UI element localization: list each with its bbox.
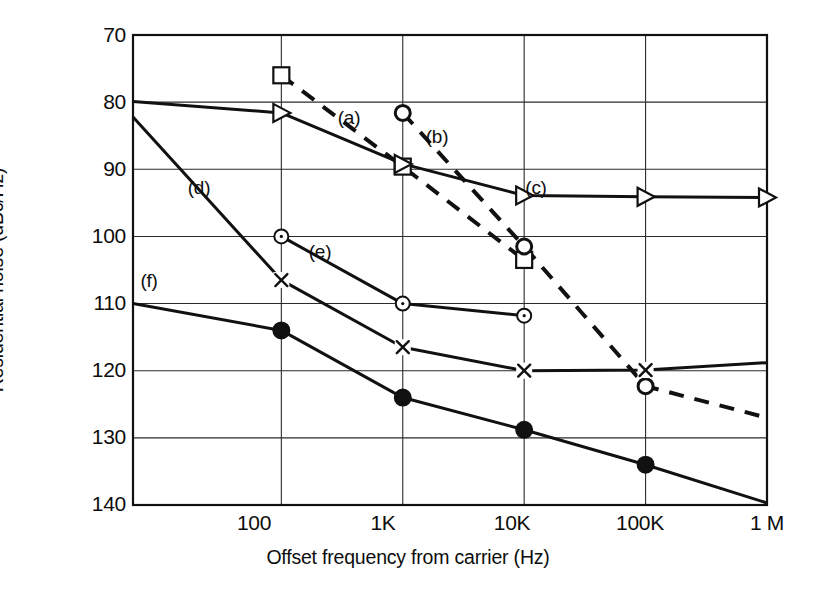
y-tick-80: 80 — [56, 90, 126, 114]
y-tick-100: 100 — [56, 224, 126, 248]
series-line-f — [133, 304, 767, 503]
series-label-f: (f) — [140, 270, 157, 292]
marker-a-100 — [273, 67, 289, 83]
marker-f-100000 — [638, 457, 654, 473]
y-axis-tick-labels: 70 80 90 100 110 120 130 140 — [48, 0, 126, 597]
marker-b-10000 — [517, 239, 532, 254]
marker-e-10000-center — [523, 314, 526, 317]
y-tick-120: 120 — [56, 358, 126, 382]
y-tick-70: 70 — [56, 23, 126, 47]
x-tick-10k: 10K — [494, 511, 530, 535]
series-line-b — [403, 113, 767, 418]
marker-e-1000-center — [401, 302, 404, 305]
x-tick-1k: 1K — [370, 511, 395, 535]
plot-frame — [133, 35, 767, 505]
marker-f-100 — [273, 322, 289, 338]
y-tick-130: 130 — [56, 425, 126, 449]
x-axis-title: Offset frequency from carrier (Hz) — [0, 546, 816, 569]
x-tick-1m: 1 M — [750, 511, 784, 535]
chart-figure: Residential noise (dBc/Hz) 70 80 90 100 … — [0, 0, 816, 597]
x-tick-100: 100 — [237, 511, 271, 535]
y-tick-140: 140 — [56, 492, 126, 516]
marker-b-1000 — [395, 105, 410, 120]
series-line-d — [133, 117, 767, 371]
series-line-c — [133, 101, 767, 197]
series-label-e: (e) — [309, 241, 331, 263]
marker-e-100-center — [280, 235, 283, 238]
marker-f-10000 — [516, 422, 532, 438]
y-tick-90: 90 — [56, 157, 126, 181]
series-label-a: (a) — [338, 107, 360, 129]
plot-border — [133, 35, 767, 505]
y-axis-title: Residential noise (dBc/Hz) — [0, 168, 8, 393]
x-tick-100k: 100K — [616, 511, 664, 535]
y-tick-110: 110 — [56, 291, 126, 315]
series-label-b: (b) — [426, 126, 448, 148]
series-lines — [133, 75, 767, 503]
grid-lines — [133, 35, 767, 505]
marker-b-100000 — [638, 379, 653, 394]
series-label-d: (d) — [188, 177, 210, 199]
series-label-c: (c) — [525, 177, 546, 199]
marker-f-1000 — [395, 390, 411, 406]
